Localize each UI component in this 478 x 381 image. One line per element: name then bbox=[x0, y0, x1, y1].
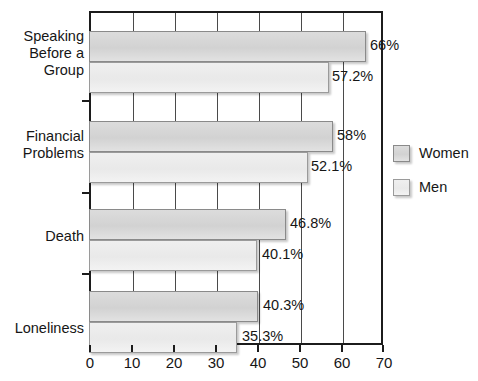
value-label-men-financial: 52.1% bbox=[311, 159, 352, 174]
legend-item-men[interactable]: Men bbox=[393, 175, 469, 199]
value-label-women-death: 46.8% bbox=[290, 216, 331, 231]
legend-label: Men bbox=[419, 180, 447, 195]
x-tick bbox=[89, 345, 91, 352]
category-label-line: Death bbox=[0, 228, 84, 245]
x-tick bbox=[173, 345, 175, 352]
value-label-men-loneliness: 35.3% bbox=[242, 329, 283, 344]
x-tick bbox=[131, 345, 133, 352]
x-tick bbox=[341, 345, 343, 352]
category-label-line: Before a bbox=[0, 45, 84, 62]
bar-women-death[interactable] bbox=[89, 209, 286, 240]
x-tick bbox=[382, 345, 384, 352]
x-tick-label: 40 bbox=[250, 355, 267, 370]
legend-label: Women bbox=[419, 146, 469, 161]
category-axis-labels: Speaking Before a Group Financial Proble… bbox=[0, 0, 84, 381]
legend-item-women[interactable]: Women bbox=[393, 141, 469, 165]
x-tick-label: 0 bbox=[86, 355, 94, 370]
x-tick-label: 30 bbox=[208, 355, 225, 370]
category-label-line: Problems bbox=[0, 145, 84, 162]
value-label-men-speaking: 57.2% bbox=[332, 69, 373, 84]
x-tick bbox=[215, 345, 217, 352]
value-label-men-death: 40.1% bbox=[262, 247, 303, 262]
bar-women-loneliness[interactable] bbox=[89, 291, 258, 322]
x-tick-label: 50 bbox=[292, 355, 309, 370]
legend-swatch-icon bbox=[393, 145, 410, 162]
x-tick-label: 60 bbox=[334, 355, 351, 370]
bar-chart: Speaking Before a Group Financial Proble… bbox=[0, 0, 478, 381]
x-tick-label: 70 bbox=[376, 355, 393, 370]
bars-layer bbox=[89, 11, 383, 345]
bar-women-speaking[interactable] bbox=[89, 31, 366, 62]
bar-women-financial[interactable] bbox=[89, 121, 333, 152]
x-tick-label: 20 bbox=[166, 355, 183, 370]
category-label-financial: Financial Problems bbox=[0, 128, 84, 162]
category-label-death: Death bbox=[0, 228, 84, 245]
category-label-line: Speaking bbox=[0, 28, 84, 45]
x-tick bbox=[257, 345, 259, 352]
legend-swatch-icon bbox=[393, 179, 410, 196]
category-label-line: Group bbox=[0, 62, 84, 79]
category-label-line: Loneliness bbox=[0, 320, 84, 337]
x-tick-label: 10 bbox=[124, 355, 141, 370]
bar-men-death[interactable] bbox=[89, 240, 257, 271]
legend: Women Men bbox=[393, 141, 469, 209]
bar-men-speaking[interactable] bbox=[89, 62, 329, 93]
bar-men-financial[interactable] bbox=[89, 152, 308, 183]
value-label-women-speaking: 66% bbox=[370, 38, 399, 53]
category-label-speaking: Speaking Before a Group bbox=[0, 28, 84, 79]
category-label-loneliness: Loneliness bbox=[0, 320, 84, 337]
value-label-women-loneliness: 40.3% bbox=[263, 298, 304, 313]
value-label-women-financial: 58% bbox=[337, 128, 366, 143]
x-tick bbox=[299, 345, 301, 352]
category-label-line: Financial bbox=[0, 128, 84, 145]
